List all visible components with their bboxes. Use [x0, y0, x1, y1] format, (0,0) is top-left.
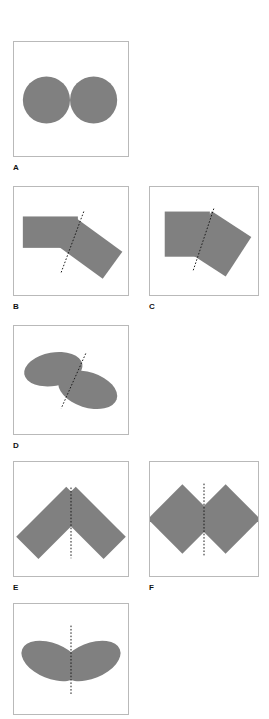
panel-f-canvas: [150, 462, 258, 576]
panel-a-shape-2-circle: [70, 76, 117, 123]
panel-label-a: A: [13, 163, 19, 172]
panel-a-shape-1-circle: [23, 76, 70, 123]
panel-label-b: B: [13, 302, 19, 311]
panel-g-canvas: [14, 604, 128, 714]
figure-panel-e: [13, 461, 129, 577]
panel-label-d: D: [13, 441, 19, 450]
figure-panel-c: [149, 186, 259, 296]
panel-label-f: F: [149, 583, 154, 592]
figure-panel-d: [13, 325, 129, 435]
panel-c-canvas: [150, 187, 258, 295]
panel-a-canvas: [14, 42, 128, 156]
figure-sheet: ABCDEF: [0, 0, 269, 719]
figure-panel-g: [13, 603, 129, 715]
figure-panel-b: [13, 186, 129, 296]
panel-d-canvas: [14, 326, 128, 434]
panel-f-shape-2-rect: [191, 484, 258, 553]
panel-label-c: C: [149, 302, 155, 311]
panel-b-canvas: [14, 187, 128, 295]
figure-panel-a: [13, 41, 129, 157]
panel-label-e: E: [13, 583, 18, 592]
figure-panel-f: [149, 461, 259, 577]
panel-e-canvas: [14, 462, 128, 576]
